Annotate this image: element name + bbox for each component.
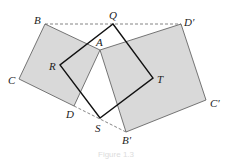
label-dprime: D′ [183, 16, 195, 28]
label-a: A [95, 36, 103, 48]
label-b: B [34, 14, 41, 26]
label-cprime: C′ [210, 97, 220, 109]
label-bprime: B′ [122, 134, 132, 146]
label-s: S [95, 122, 101, 134]
label-r: R [48, 60, 56, 72]
figure-caption: Figure 1.3 [98, 150, 135, 159]
geometry-figure: B Q D′ A R T C C′ D S B′ Figure 1.3 [0, 0, 231, 160]
label-t: T [157, 73, 164, 85]
label-c: C [8, 74, 16, 86]
label-d: D [65, 108, 74, 120]
label-q: Q [109, 9, 117, 21]
